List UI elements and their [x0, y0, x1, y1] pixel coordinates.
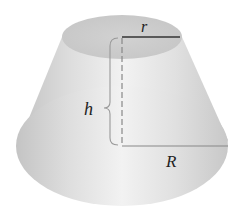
frustum-figure: r h R	[0, 0, 244, 214]
frustum-diagram: r h R	[0, 0, 244, 214]
label-h: h	[84, 99, 93, 119]
label-r: r	[141, 18, 148, 35]
label-R: R	[165, 152, 177, 171]
